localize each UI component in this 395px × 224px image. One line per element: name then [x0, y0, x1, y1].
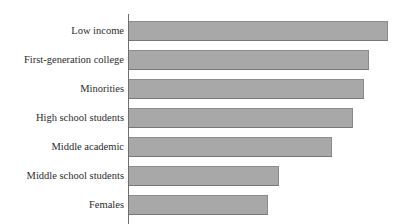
plot-area: Low incomeFirst-generation collegeMinori… — [0, 0, 395, 224]
bar-chart: Low incomeFirst-generation collegeMinori… — [0, 0, 395, 224]
bar-track — [129, 108, 353, 128]
bar-row: Minorities — [0, 79, 395, 99]
bar — [129, 21, 388, 41]
bar — [129, 50, 369, 70]
bar — [129, 195, 268, 215]
bar-row: Middle academic — [0, 137, 395, 157]
bar — [129, 108, 353, 128]
bar-category-label: Middle academic — [51, 142, 124, 153]
bar — [129, 79, 364, 99]
bar-category-label: High school students — [36, 113, 124, 124]
bar-track — [129, 137, 332, 157]
bar-category-label: Low income — [71, 26, 124, 37]
bar-track — [129, 195, 268, 215]
bar-row: Females — [0, 195, 395, 215]
bar-track — [129, 50, 369, 70]
bar — [129, 166, 279, 186]
bar-row: High school students — [0, 108, 395, 128]
bar-row: Low income — [0, 21, 395, 41]
bar-row: Middle school students — [0, 166, 395, 186]
bar-row: First-generation college — [0, 50, 395, 70]
bar-category-label: First-generation college — [24, 55, 124, 66]
bar-track — [129, 79, 364, 99]
bar — [129, 137, 332, 157]
bar-category-label: Minorities — [80, 84, 124, 95]
bar-category-label: Middle school students — [27, 171, 124, 182]
bar-track — [129, 21, 388, 41]
bar-track — [129, 166, 279, 186]
bar-category-label: Females — [89, 200, 124, 211]
